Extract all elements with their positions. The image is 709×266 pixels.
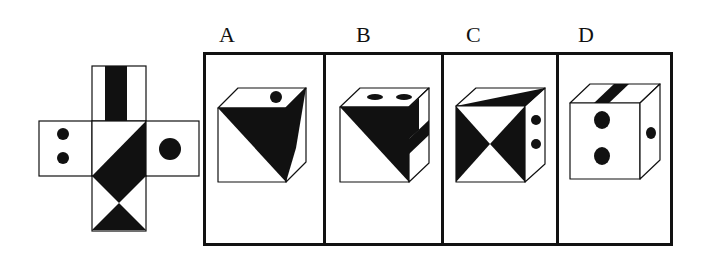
net-stripe: [105, 66, 127, 121]
divider-bc: [441, 52, 444, 246]
option-label-c: C: [466, 22, 481, 48]
divider-cd: [556, 52, 559, 246]
option-label-a: A: [219, 22, 235, 48]
option-b-cube[interactable]: [337, 103, 437, 213]
option-label-b: B: [356, 22, 371, 48]
option-label-d: D: [578, 22, 594, 48]
option-c-cube[interactable]: [454, 103, 554, 213]
cube-net: [0, 0, 210, 266]
option-a-cube[interactable]: [214, 100, 314, 210]
divider-ab: [323, 52, 326, 246]
option-d-cube[interactable]: [568, 103, 668, 213]
